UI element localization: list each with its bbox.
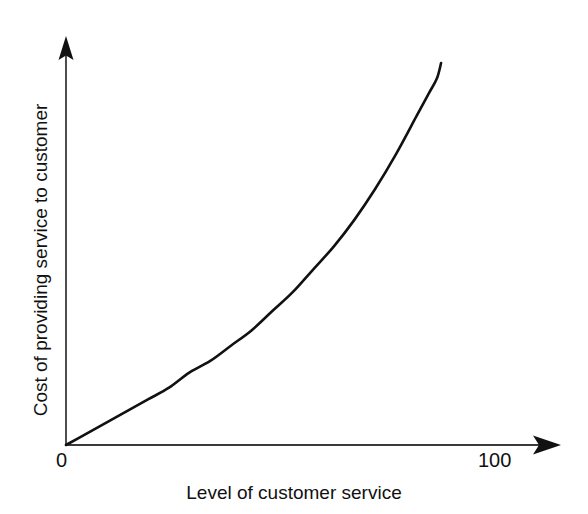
x-axis-tick-label-max: 100 <box>478 450 511 470</box>
x-axis-title: Level of customer service <box>0 483 588 502</box>
cost-curve-line <box>66 63 441 445</box>
x-axis-tick-label-zero: 0 <box>56 450 67 470</box>
chart-figure: 0 100 Level of customer service Cost of … <box>0 0 588 514</box>
chart-plot-area <box>0 0 588 514</box>
